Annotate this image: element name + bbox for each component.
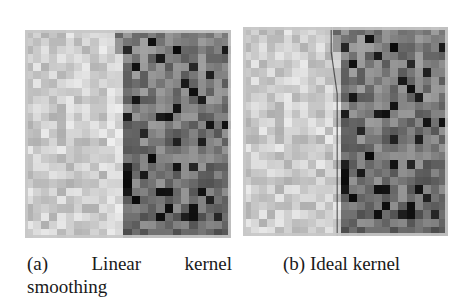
- figure-panel-b-ideal-kernel-image: [243, 27, 448, 236]
- pixel-grid-image-a: [25, 30, 231, 238]
- caption-a-word2: kernel: [185, 252, 232, 275]
- caption-a-line2: smoothing: [27, 275, 232, 298]
- pixel-grid-image-b: [243, 27, 448, 236]
- caption-a-label: (a): [27, 252, 48, 275]
- caption-a: (a) Linear kernel smoothing: [27, 252, 232, 298]
- caption-a-word1: Linear: [92, 252, 142, 275]
- caption-b: (b) Ideal kernel: [283, 252, 400, 275]
- figure-panel-a-linear-kernel-image: [25, 30, 231, 238]
